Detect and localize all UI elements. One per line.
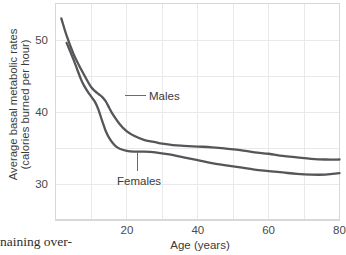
y-axis-tick-labels: 304050 [35,34,48,190]
females-annotation: Females [117,152,161,187]
x-tick-label-40: 40 [191,224,204,236]
males-annotation: Males [125,90,180,102]
females-label: Females [117,175,161,187]
page-body-text-fragment: naining over- [0,234,72,250]
y-tick-label-50: 50 [35,34,48,46]
chart-canvas: Males Females 20406080 304050 Age (years… [0,0,346,255]
males-label: Males [149,90,180,102]
series-line-females [67,43,340,175]
metabolic-rate-chart-figure: Males Females 20406080 304050 Age (years… [0,0,346,255]
x-tick-label-60: 60 [262,224,275,236]
x-axis-tick-labels: 20406080 [121,224,346,236]
x-tick-label-80: 80 [333,224,346,236]
x-tick-label-20: 20 [121,224,134,236]
series-lines-group [61,18,339,174]
y-tick-label-40: 40 [35,106,48,118]
y-tick-label-30: 30 [35,178,48,190]
x-axis-title: Age (years) [170,239,230,251]
